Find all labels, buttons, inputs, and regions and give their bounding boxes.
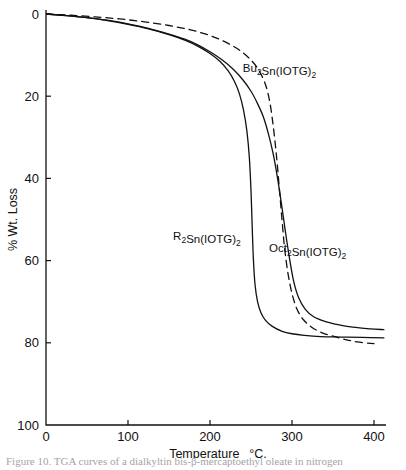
- series-curve-oct2sn-iotg-2: [46, 14, 384, 330]
- series-annotation-r2sn-iotg-2: R2Sn(IOTG)2: [173, 230, 241, 248]
- series-curve-bu2sn-iotg-2: [46, 14, 374, 344]
- x-tick-label: 200: [199, 429, 221, 444]
- x-tick-label: 100: [117, 429, 139, 444]
- y-tick-label: 40: [25, 171, 39, 186]
- series-annotation-oct2sn-iotg-2: Oct2Sn(IOTG)2: [269, 242, 346, 260]
- y-axis-label: % Wt. Loss: [6, 188, 20, 251]
- figure-caption-text: Figure 10. TGA curves of a dialkyltin bi…: [6, 457, 406, 467]
- figure-caption: Figure 10. TGA curves of a dialkyltin bi…: [0, 457, 406, 470]
- tga-chart: 0204060801000100200300400Temperature°C.%…: [0, 0, 406, 458]
- series-curve-r2sn-iotg-2: [46, 14, 384, 338]
- series-annotation-bu2sn-iotg-2: Bu2Sn(IOTG)2: [243, 62, 317, 80]
- axes: 0204060801000100200300400: [17, 7, 386, 445]
- x-tick-label: 0: [42, 429, 49, 444]
- y-tick-label: 0: [32, 7, 39, 22]
- axis-lines: [46, 10, 386, 425]
- y-tick-label: 60: [25, 253, 39, 268]
- tga-figure: 0204060801000100200300400Temperature°C.%…: [0, 0, 406, 470]
- x-tick-label: 300: [281, 429, 303, 444]
- y-tick-label: 20: [25, 89, 39, 104]
- curves-group: [46, 14, 384, 344]
- x-tick-label: 400: [363, 429, 385, 444]
- y-tick-label: 80: [25, 335, 39, 350]
- y-tick-label: 100: [17, 418, 39, 433]
